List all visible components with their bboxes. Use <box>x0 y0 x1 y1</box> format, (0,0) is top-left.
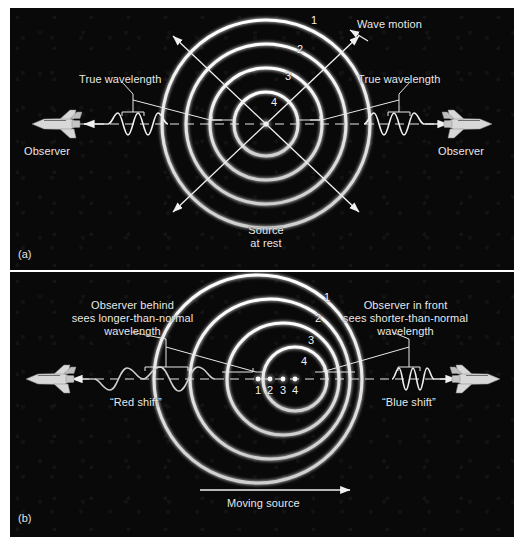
source-at-rest-line2: at rest <box>239 237 293 250</box>
moving-source-label: Moving source <box>227 497 300 510</box>
ring-number-4-a: 4 <box>271 97 277 108</box>
ring-number-1-a: 1 <box>311 15 317 26</box>
source-position-number-1: 1 <box>255 385 261 396</box>
ring-number-4-b: 4 <box>301 356 307 367</box>
true-wavelength-label-right: True wavelength <box>358 73 440 86</box>
doppler-figure: 1 2 3 4 Wave motion True wavelength True… <box>0 0 524 545</box>
panel-a-source-at-rest: 1 2 3 4 Wave motion True wavelength True… <box>10 8 514 270</box>
source-position-number-4: 4 <box>292 385 298 396</box>
source-position-number-3: 3 <box>280 385 286 396</box>
blue-shift-label: “Blue shift” <box>382 396 436 409</box>
source-position-number-2: 2 <box>267 385 273 396</box>
ring-number-2-b: 2 <box>315 313 321 324</box>
observer-label-right-a: Observer <box>438 145 484 158</box>
shuttle-left-a <box>32 110 82 138</box>
source-dot-1 <box>256 377 261 382</box>
wave-motion-leader-a <box>350 30 368 41</box>
source-at-rest-line1: Source <box>239 224 293 237</box>
shuttle-left-b <box>26 365 76 393</box>
observer-behind-line1: Observer behind <box>70 299 195 312</box>
ring-number-1-b: 1 <box>324 292 330 303</box>
wave-motion-label: Wave motion <box>357 18 422 31</box>
observer-front-line3: wavelength <box>343 325 468 338</box>
shuttle-right-b <box>450 365 500 393</box>
red-shift-label: “Red shift” <box>110 396 162 409</box>
ring-number-2-a: 2 <box>297 44 303 55</box>
panel-a-id: (a) <box>18 248 31 260</box>
observer-front-line1: Observer in front <box>343 299 468 312</box>
ring-number-3-b: 3 <box>308 335 314 346</box>
source-dot-4 <box>293 377 298 382</box>
source-dot-2 <box>268 377 273 382</box>
panel-b-id: (b) <box>18 512 31 524</box>
panel-b-moving-source: 1 2 3 4 1 2 3 4 Observer behind sees lon… <box>10 272 514 537</box>
shuttle-right-a <box>442 110 492 138</box>
observer-behind-line3: wavelength <box>70 325 195 338</box>
observer-behind-line2: sees longer-than-normal <box>55 312 210 325</box>
observer-label-left-a: Observer <box>24 145 70 158</box>
wave-right-a <box>364 113 448 135</box>
true-wavelength-label-left: True wavelength <box>79 73 161 86</box>
source-dot-3 <box>281 377 286 382</box>
ring-number-3-a: 3 <box>285 71 291 82</box>
observer-front-line2: sees shorter-than-normal <box>328 312 483 325</box>
